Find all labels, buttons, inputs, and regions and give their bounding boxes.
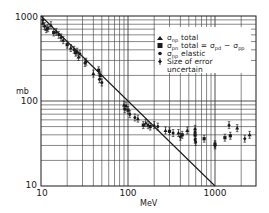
data-point bbox=[229, 132, 232, 139]
data-point bbox=[142, 122, 145, 129]
data-point bbox=[223, 134, 226, 141]
square-marker-icon bbox=[158, 43, 163, 48]
x-tick-10: 10 bbox=[36, 188, 48, 198]
data-point bbox=[69, 45, 73, 52]
data-point bbox=[203, 135, 206, 142]
data-point bbox=[164, 127, 168, 134]
data-point bbox=[136, 115, 140, 122]
svg-text:uncertain: uncertain bbox=[167, 65, 203, 74]
data-point bbox=[227, 122, 230, 129]
x-tick-1000: 1000 bbox=[204, 188, 227, 198]
y-tick-100: 100 bbox=[21, 96, 38, 106]
x-tick-100: 100 bbox=[119, 188, 136, 198]
y-axis-label: mb bbox=[16, 87, 29, 96]
data-point bbox=[126, 107, 129, 114]
cross-section-chart: σnptotal σpntotal =σpd−σpp σnpelastic Si… bbox=[0, 0, 269, 213]
y-tick-1000: 1000 bbox=[15, 12, 38, 22]
data-point bbox=[168, 128, 171, 135]
dot-marker-icon bbox=[158, 52, 162, 56]
x-axis-label: MeV bbox=[140, 199, 158, 208]
data-point bbox=[243, 135, 246, 142]
data-point bbox=[172, 130, 175, 137]
data-point bbox=[235, 125, 239, 132]
data-point bbox=[91, 70, 95, 77]
